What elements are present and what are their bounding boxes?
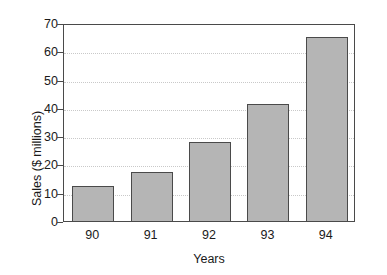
y-axis-tick-label: 10 (32, 188, 58, 200)
x-axis-tick-label: 91 (131, 228, 171, 242)
bar (247, 104, 289, 221)
y-axis-tick-mark (57, 109, 63, 110)
bar (306, 37, 348, 221)
x-axis-tick-labels: 9091929394 (63, 228, 355, 244)
y-axis-tick-label: 30 (32, 131, 58, 143)
bar (72, 186, 114, 221)
y-axis-tick-label: 0 (32, 216, 58, 228)
y-axis-tick-mark (57, 52, 63, 53)
x-axis-tick-label: 94 (306, 228, 346, 242)
y-axis-tick-mark (57, 165, 63, 166)
plot-area (63, 24, 355, 222)
bars-layer (64, 25, 354, 221)
y-axis-tick-labels: 010203040506070 (30, 24, 58, 222)
y-axis-tick-mark (57, 137, 63, 138)
x-axis-title: Years (63, 252, 355, 266)
y-axis-tick-label: 60 (32, 46, 58, 58)
y-axis-tick-label: 50 (32, 75, 58, 87)
y-axis-tick-label: 40 (32, 103, 58, 115)
y-axis-tick-mark (57, 194, 63, 195)
x-axis-tick-label: 93 (247, 228, 287, 242)
y-axis-tick-mark (57, 24, 63, 25)
y-axis-tick-label: 20 (32, 159, 58, 171)
bar (189, 142, 231, 221)
y-axis-tick-mark (57, 81, 63, 82)
x-axis-tick-label: 90 (72, 228, 112, 242)
y-axis-tick-mark (57, 222, 63, 223)
bar (131, 172, 173, 222)
y-axis-tick-label: 70 (32, 18, 58, 30)
x-axis-tick-label: 92 (189, 228, 229, 242)
bar-chart: Sales ($ millions) 010203040506070 90919… (0, 0, 387, 275)
